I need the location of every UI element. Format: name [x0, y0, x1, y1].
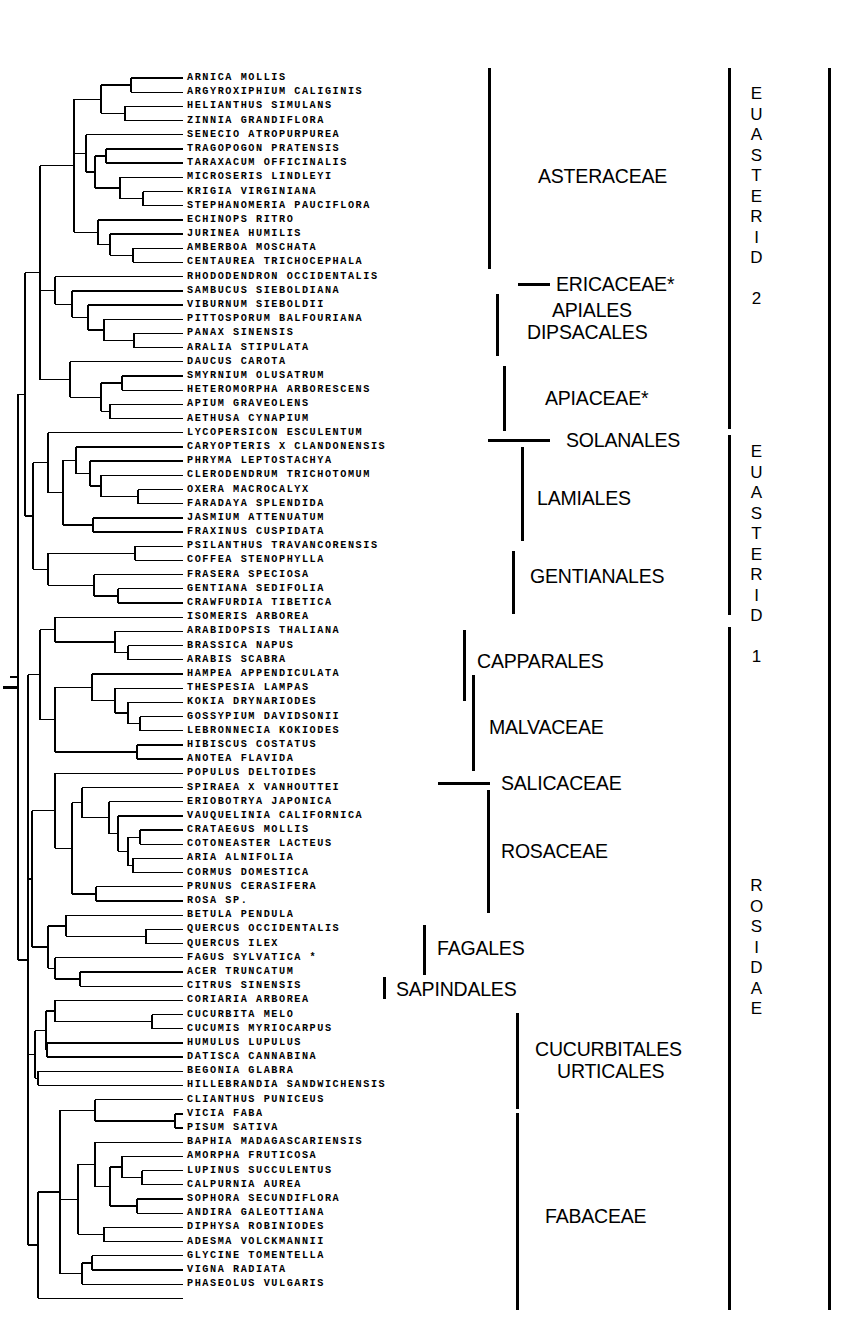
- taxon-label: GENTIANA SEDIFOLIA: [187, 584, 325, 594]
- rosidae-bracket: [728, 627, 731, 1310]
- salicaceae-dash: [438, 782, 490, 785]
- clade-label-capparales: CAPPARALES: [477, 650, 604, 673]
- euasterid1-bracket: [728, 435, 731, 615]
- clade-label-dipsacales: DIPSACALES: [527, 321, 647, 344]
- clade-label-salicaceae: SALICACEAE: [501, 772, 621, 795]
- taxon-label: KRIGIA VIRGINIANA: [187, 187, 317, 197]
- clade-label-gentianales: GENTIANALES: [530, 565, 664, 588]
- taxon-label: ADESMA VOLCKMANNII: [187, 1237, 325, 1247]
- taxon-label: LEBRONNECIA KOKIODES: [187, 726, 340, 736]
- taxon-label: ZINNIA GRANDIFLORA: [187, 116, 325, 126]
- taxon-label: PHRYMA LEPTOSTACHYA: [187, 456, 333, 466]
- clade-label-apiales: APIALES: [552, 299, 632, 322]
- taxon-label: CALPURNIA AUREA: [187, 1180, 302, 1190]
- taxon-label: FRAXINUS CUSPIDATA: [187, 527, 325, 537]
- taxon-label: HUMULUS LUPULUS: [187, 1038, 302, 1048]
- sapindales-bracket: [383, 977, 386, 999]
- apiales-bracket: [496, 294, 499, 356]
- taxon-label: PISUM SATIVA: [187, 1123, 279, 1133]
- solanales-dash: [488, 439, 550, 442]
- rosaceae-bracket: [487, 790, 490, 913]
- taxon-label: ROSA SP.: [187, 896, 248, 906]
- taxon-label: DAUCUS CAROTA: [187, 357, 287, 367]
- taxon-label: APIUM GRAVEOLENS: [187, 399, 310, 409]
- capparales-bracket: [463, 630, 466, 701]
- taxon-label: STEPHANOMERIA PAUCIFLORA: [187, 201, 371, 211]
- taxon-label: PHASEOLUS VULGARIS: [187, 1279, 325, 1289]
- taxon-label: CUCURBITA MELO: [187, 1010, 294, 1020]
- taxon-label: COTONEASTER LACTEUS: [187, 839, 333, 849]
- taxon-label: CITRUS SINENSIS: [187, 981, 302, 991]
- taxon-label: GLYCINE TOMENTELLA: [187, 1251, 325, 1261]
- taxon-label: FAGUS SYLVATICA *: [187, 953, 317, 963]
- taxon-label: HETEROMORPHA ARBORESCENS: [187, 385, 371, 395]
- taxon-label: PANAX SINENSIS: [187, 328, 294, 338]
- clade-label-sapindales: SAPINDALES: [396, 978, 516, 1001]
- figure-canvas: ARNICA MOLLISARGYROXIPHIUM CALIGINISHELI…: [0, 0, 846, 1321]
- taxon-label: CORMUS DOMESTICA: [187, 868, 310, 878]
- clade-label-fabaceae: FABACEAE: [545, 1205, 646, 1228]
- taxon-label: ARNICA MOLLIS: [187, 73, 287, 83]
- taxon-label: ARABIS SCABRA: [187, 655, 287, 665]
- taxon-label: SOPHORA SECUNDIFLORA: [187, 1194, 340, 1204]
- taxon-label: HAMPEA APPENDICULATA: [187, 669, 340, 679]
- taxon-label: HIBISCUS COSTATUS: [187, 740, 317, 750]
- taxon-label: DIPHYSA ROBINIODES: [187, 1222, 325, 1232]
- cucurbitales-bracket: [516, 1013, 519, 1109]
- taxon-label: ARIA ALNIFOLIA: [187, 853, 294, 863]
- cladogram-tree-lines: [0, 0, 846, 1321]
- gentianales-bracket: [512, 551, 515, 614]
- clade-label-euasterid-1: EUASTERID 1: [748, 442, 765, 668]
- clade-label-ericaceae: ERICACEAE*: [556, 273, 674, 296]
- taxon-label: BRASSICA NAPUS: [187, 641, 294, 651]
- taxon-label: THESPESIA LAMPAS: [187, 683, 310, 693]
- malvacaeae-bracket: [472, 675, 475, 771]
- taxon-label: HELIANTHUS SIMULANS: [187, 101, 333, 111]
- taxon-label: JASMIUM ATTENUATUM: [187, 513, 325, 523]
- taxon-label: CRATAEGUS MOLLIS: [187, 825, 310, 835]
- taxon-label: KOKIA DRYNARIODES: [187, 697, 317, 707]
- taxon-label: CUCUMIS MYRIOCARPUS: [187, 1024, 333, 1034]
- taxon-label: ARABIDOPSIS THALIANA: [187, 626, 340, 636]
- taxon-label: CLIANTHUS PUNICEUS: [187, 1095, 325, 1105]
- clade-label-solanales: SOLANALES: [566, 429, 680, 452]
- taxon-label: AMBERBOA MOSCHATA: [187, 243, 317, 253]
- taxon-label: CENTAUREA TRICHOCEPHALA: [187, 257, 363, 267]
- taxon-label: TRAGOPOGON PRATENSIS: [187, 144, 340, 154]
- taxon-label: SPIRAEA X VANHOUTTEI: [187, 783, 340, 793]
- taxon-label: ECHINOPS RITRO: [187, 215, 294, 225]
- taxon-label: PSILANTHUS TRAVANCORENSIS: [187, 541, 379, 551]
- taxon-label: CARYOPTERIS X CLANDONENSIS: [187, 442, 386, 452]
- taxon-label: SMYRNIUM OLUSATRUM: [187, 371, 325, 381]
- taxon-label: BEGONIA GLABRA: [187, 1066, 294, 1076]
- taxon-label: SAMBUCUS SIEBOLDIANA: [187, 286, 340, 296]
- clade-label-fagales: FAGALES: [437, 937, 524, 960]
- taxon-label: VIGNA RADIATA: [187, 1265, 287, 1275]
- taxon-label: QUERCUS ILEX: [187, 939, 279, 949]
- taxon-label: DATISCA CANNABINA: [187, 1052, 317, 1062]
- outer-bracket: [828, 68, 831, 1310]
- taxon-label: LUPINUS SUCCULENTUS: [187, 1166, 333, 1176]
- taxon-label: HILLEBRANDIA SANDWICHENSIS: [187, 1080, 386, 1090]
- clade-label-urticales: URTICALES: [557, 1060, 664, 1083]
- euasterid2-bracket: [728, 68, 731, 429]
- taxon-label: SENECIO ATROPURPUREA: [187, 130, 340, 140]
- taxon-label: TARAXACUM OFFICINALIS: [187, 158, 348, 168]
- clade-label-asteraceae: ASTERACEAE: [538, 165, 667, 188]
- taxon-label: BAPHIA MADAGASCARIENSIS: [187, 1137, 363, 1147]
- ericaceae-dash: [518, 283, 550, 286]
- taxon-label: CORIARIA ARBOREA: [187, 995, 310, 1005]
- taxon-label: MICROSERIS LINDLEYI: [187, 172, 333, 182]
- fabaceae-bracket: [516, 1113, 519, 1310]
- taxon-label: ANDIRA GALEOTTIANA: [187, 1208, 325, 1218]
- clade-label-rosidae: ROSIDAE: [748, 876, 765, 1020]
- lamiales-bracket: [521, 447, 524, 541]
- taxon-label: ERIOBOTRYA JAPONICA: [187, 797, 333, 807]
- taxon-label: ARGYROXIPHIUM CALIGINIS: [187, 87, 363, 97]
- clade-label-lamiales: LAMIALES: [537, 487, 631, 510]
- taxon-label: QUERCUS OCCIDENTALIS: [187, 924, 340, 934]
- fagales-bracket: [423, 925, 426, 975]
- taxon-label: OXERA MACROCALYX: [187, 485, 310, 495]
- taxon-label: ARALIA STIPULATA: [187, 343, 310, 353]
- taxon-label: JURINEA HUMILIS: [187, 229, 302, 239]
